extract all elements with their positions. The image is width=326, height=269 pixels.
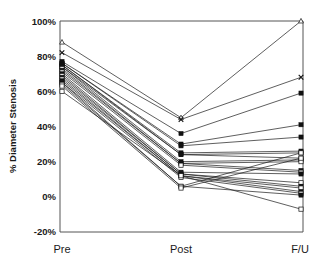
y-tick-label: -20% [34, 226, 57, 237]
y-tick-label: 80% [37, 51, 57, 62]
y-tick-label: 40% [37, 121, 57, 132]
x-tick-label-fu: F/U [291, 243, 309, 255]
y-tick-label: 20% [37, 156, 57, 167]
data-point-marker [60, 84, 64, 88]
series-layer [60, 18, 304, 211]
data-point-marker [299, 91, 303, 95]
chart-container: % Diameter Stenosis 100% 80% 60% 40% 20%… [0, 0, 326, 269]
data-point-marker [299, 207, 303, 211]
series-lesion-6 [60, 63, 303, 155]
data-point-marker [299, 156, 303, 160]
data-point-marker [299, 135, 303, 139]
line-chart-svg: % Diameter Stenosis 100% 80% 60% 40% 20%… [0, 0, 326, 269]
data-point-marker [179, 153, 183, 157]
data-point-marker [179, 131, 183, 135]
y-tick-label: 0% [42, 191, 56, 202]
data-point-marker [60, 89, 64, 93]
data-point-marker [179, 186, 183, 190]
data-point-marker [179, 163, 183, 167]
x-tick-label-pre: Pre [53, 243, 70, 255]
data-point-marker [299, 193, 303, 197]
data-point-marker [299, 172, 303, 176]
x-tick-label-post: Post [170, 243, 192, 255]
y-tick-labels-group: 100% 80% 60% 40% 20% 0% -20% [32, 16, 57, 237]
data-point-marker [299, 151, 303, 155]
series-path [62, 74, 301, 174]
data-point-marker [179, 174, 183, 178]
y-tick-label: 60% [37, 86, 57, 97]
y-axis-title-group: % Diameter Stenosis [7, 79, 18, 173]
data-point-marker [179, 144, 183, 148]
data-point-marker [299, 123, 303, 127]
y-tick-label: 100% [32, 16, 57, 27]
series-lesion-12 [60, 70, 303, 174]
y-axis-title: % Diameter Stenosis [7, 79, 18, 173]
x-tick-labels-group: Pre Post F/U [53, 243, 308, 255]
series-lesion-22 [60, 89, 303, 211]
plot-frame [60, 21, 303, 232]
